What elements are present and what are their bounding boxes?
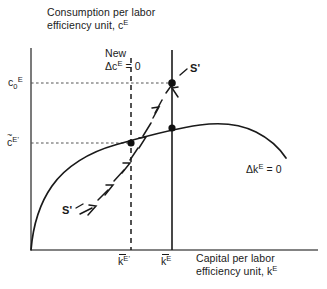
y-axis-title: Consumption per labor efficiency unit, c… — [47, 6, 155, 31]
saddle-path-label-upper: S' — [190, 62, 200, 75]
bar-accent — [119, 254, 126, 255]
saddle-path-label-lower: S' — [62, 204, 72, 217]
new-steady-state-point — [127, 139, 134, 146]
phase-diagram-figure: Consumption per labor efficiency unit, c… — [0, 0, 327, 289]
k-locus-curve — [31, 124, 286, 250]
x-tick-label-kbar: kE — [161, 255, 171, 268]
k-locus-label: ΔkE = 0 — [246, 163, 282, 176]
bar-accent — [162, 254, 169, 255]
jump-point — [168, 79, 176, 87]
saddle-path-dashes — [80, 86, 171, 214]
s-lower-leader-dash — [76, 204, 83, 208]
tilde-accent: ~ — [7, 131, 12, 140]
s-upper-leader-dash — [180, 69, 187, 75]
new-c-locus-label: New ΔcE = 0 — [105, 47, 141, 72]
x-tick-label-kbar-prime: kE' — [118, 255, 130, 268]
y-tick-label-cbar-prime: ~cE' — [7, 136, 19, 149]
x-axis-title: Capital per labor efficiency unit, kE — [196, 252, 277, 277]
old-steady-state-point — [168, 124, 175, 131]
y-tick-label-c0: c0E — [8, 76, 23, 89]
diagram-canvas — [0, 0, 327, 289]
